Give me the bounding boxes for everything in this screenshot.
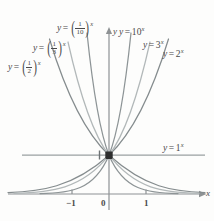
label-exponent: x: [181, 141, 184, 148]
paren-open: (: [71, 21, 75, 35]
paren-close: ): [33, 60, 37, 74]
curve-label-ten: y=10x: [119, 26, 145, 38]
fraction-denominator: 10: [75, 28, 84, 36]
fraction-one-half: 12: [26, 60, 32, 75]
label-exponent: x: [161, 38, 164, 45]
x-axis-label: x: [206, 189, 210, 198]
label-y: y: [8, 62, 12, 72]
fraction-numerator: 1: [26, 60, 32, 67]
label-exponent: x: [63, 40, 66, 47]
curve-label-one: y=1x: [163, 142, 184, 154]
common-point-dot: [105, 152, 112, 159]
label-equals: =: [125, 27, 130, 37]
paren-open: (: [22, 60, 26, 74]
fraction-group-one-tenth: (110): [70, 21, 90, 36]
label-y: y: [143, 40, 147, 50]
label-equals: =: [63, 23, 68, 33]
fraction-denominator: 3: [51, 48, 57, 56]
curve-label-three: y=3x: [143, 39, 164, 51]
fraction-one-third: 13: [51, 41, 57, 56]
label-exponent: x: [181, 47, 184, 54]
y-axis: [106, 27, 112, 210]
label-base: 10: [132, 27, 142, 37]
label-exponent: x: [90, 20, 93, 27]
label-equals: =: [39, 43, 44, 53]
label-exponent: x: [142, 25, 145, 32]
label-y: y: [33, 43, 37, 53]
curve-label-one-tenth: y=(110)x: [57, 21, 93, 36]
label-y: y: [163, 143, 167, 153]
y-axis-label: y: [113, 27, 117, 36]
fraction-numerator: 1: [51, 41, 57, 48]
x-tick-label-neg-one: −1: [66, 199, 76, 208]
x-tick-label-one: 1: [144, 199, 149, 208]
plot-canvas: [0, 0, 214, 221]
label-equals: =: [14, 62, 19, 72]
label-exponent: x: [38, 59, 41, 66]
label-equals: =: [149, 40, 154, 50]
paren-close: ): [58, 41, 62, 55]
label-equals: =: [169, 143, 174, 153]
label-base: 1: [176, 143, 181, 153]
x-tick-label-zero: 0: [101, 199, 106, 208]
curve-label-two: y=2x: [163, 48, 184, 60]
paren-open: (: [47, 41, 51, 55]
exponential-functions-figure: y=(110)x y=(13)x y=(12)x y=10x y=3x y=2x…: [0, 0, 214, 221]
curve-label-one-half: y=(12)x: [8, 60, 41, 75]
fraction-denominator: 2: [26, 67, 32, 75]
label-equals: =: [169, 49, 174, 59]
fraction-group-one-half: (12): [21, 60, 38, 75]
fraction-group-one-third: (13): [46, 41, 63, 56]
label-base: 3: [156, 40, 161, 50]
label-y: y: [57, 23, 61, 33]
curve-label-one-third: y=(13)x: [33, 41, 66, 56]
fraction-one-tenth: 110: [75, 21, 84, 36]
label-base: 2: [176, 49, 181, 59]
label-y: y: [163, 49, 167, 59]
fraction-numerator: 1: [75, 21, 84, 28]
label-y: y: [119, 27, 123, 37]
paren-close: ): [85, 21, 89, 35]
